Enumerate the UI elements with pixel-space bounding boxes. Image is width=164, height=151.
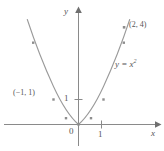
curve-equation-label: y = x2 bbox=[115, 60, 137, 69]
point-label-2-4: (2, 4) bbox=[129, 21, 146, 29]
x-axis-arrow-icon bbox=[155, 121, 162, 128]
curve-equation-exponent: 2 bbox=[134, 58, 137, 64]
y-axis-label: y bbox=[64, 7, 68, 16]
y-axis-arrow-icon bbox=[75, 7, 82, 14]
y-tick-label-1: 1 bbox=[64, 94, 69, 103]
point-label-neg1-1: (−1, 1) bbox=[13, 89, 35, 97]
origin-label: 0 bbox=[69, 127, 74, 136]
x-axis-label: x bbox=[151, 129, 155, 138]
parabola-figure: y x 0 1 1 (2, 4) (−1, 1) y = x2 bbox=[0, 0, 164, 151]
x-tick-label-1: 1 bbox=[98, 130, 103, 139]
curve-equation-base: y = x bbox=[115, 59, 134, 69]
